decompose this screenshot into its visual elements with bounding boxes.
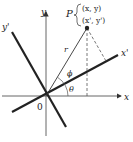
- point-p: [85, 26, 89, 30]
- dashed-perpendicular: [87, 28, 106, 61]
- x-axis-label: x: [124, 92, 129, 102]
- y-axis-label: y: [40, 7, 47, 17]
- radius-label: r: [64, 45, 69, 54]
- phi-label: ϕ: [67, 69, 73, 78]
- theta-label: θ: [69, 85, 74, 94]
- origin-label: 0: [37, 102, 43, 112]
- point-coords-original: (x, y): [82, 4, 101, 13]
- brace-icon: [74, 4, 81, 26]
- point-coords-rotated: (x', y'): [82, 16, 105, 25]
- theta-arc: [65, 86, 68, 96]
- x-prime-label: x': [121, 48, 129, 58]
- x-prime-axis: [12, 55, 118, 112]
- rotation-of-axes-diagram: y x x' y' 0 P (x, y) (x', y') r ϕ θ: [0, 0, 133, 142]
- y-prime-label: y': [1, 22, 10, 32]
- point-p-label: P: [65, 8, 73, 19]
- radius-line: [46, 28, 87, 96]
- y-prime-axis: [12, 32, 66, 127]
